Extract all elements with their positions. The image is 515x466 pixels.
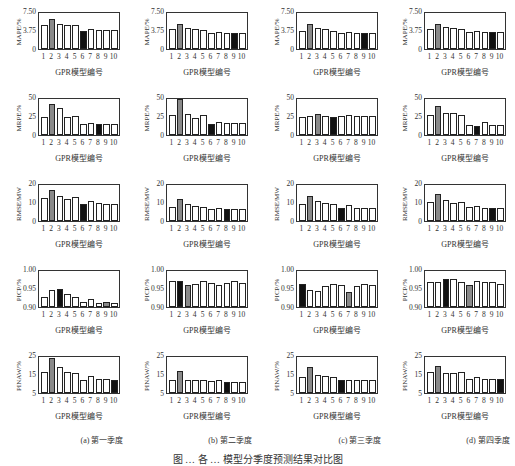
chart-panel: MAPE/%03.757.5012345678910GPR模型编号: [0, 0, 128, 86]
x-tick-label: 9: [232, 52, 236, 61]
x-tick-label: 9: [232, 138, 236, 147]
bar: [322, 203, 329, 221]
y-tick-label: 3.75: [151, 27, 164, 35]
x-tick-label: 10: [110, 310, 118, 319]
y-tick-label: 5: [290, 390, 294, 398]
x-tick-label: 9: [490, 52, 494, 61]
bar: [330, 117, 337, 135]
y-tick-label: 0.90: [281, 304, 294, 312]
bar: [354, 380, 361, 393]
x-axis-ticks: 12345678910: [296, 52, 378, 62]
bar: [369, 33, 376, 49]
bar: [450, 113, 457, 135]
bar: [41, 117, 48, 135]
x-tick-label: 6: [338, 138, 342, 147]
bar: [64, 294, 71, 307]
y-tick-label: 0: [160, 218, 164, 226]
x-tick-label: 7: [346, 310, 350, 319]
figure-caption: 图 … 各 … 模型分季度预测结果对比图: [0, 451, 515, 466]
chart-panel: PICP/%0.900.951.0012345678910GPR模型编号: [386, 258, 514, 344]
x-tick-label: 5: [73, 396, 77, 405]
x-axis-label: GPR模型编号: [166, 324, 248, 335]
bar: [41, 198, 48, 221]
bar: [224, 283, 231, 307]
x-axis-label: GPR模型编号: [296, 238, 378, 249]
x-tick-label: 2: [49, 52, 53, 61]
bar: [450, 203, 457, 221]
x-tick-label: 8: [354, 138, 358, 147]
bar: [177, 24, 184, 49]
bar: [497, 284, 504, 307]
x-tick-label: 6: [80, 310, 84, 319]
subcaption-q4: (d) 第四季度: [424, 434, 515, 445]
x-tick-label: 9: [104, 310, 108, 319]
x-tick-label: 7: [216, 396, 220, 405]
bar: [72, 197, 79, 221]
bar: [111, 380, 118, 394]
x-tick-label: 7: [474, 224, 478, 233]
bar: [57, 196, 64, 221]
x-axis-ticks: 12345678910: [296, 224, 378, 234]
x-tick-label: 2: [435, 396, 439, 405]
y-tick-label: 0: [160, 46, 164, 54]
x-tick-label: 2: [177, 224, 181, 233]
bar: [369, 380, 376, 393]
x-tick-label: 5: [201, 52, 205, 61]
x-tick-label: 3: [185, 52, 189, 61]
y-tick-label: 50: [415, 94, 423, 102]
x-axis-label: GPR模型编号: [38, 152, 120, 163]
bar: [466, 285, 473, 307]
x-tick-label: 5: [73, 310, 77, 319]
bar: [338, 380, 345, 393]
bar: [185, 285, 192, 307]
bar: [88, 299, 95, 307]
bar: [64, 117, 71, 135]
x-axis-label: GPR模型编号: [296, 66, 378, 77]
x-tick-label: 4: [65, 224, 69, 233]
bar: [169, 207, 176, 221]
y-tick-label: 10: [415, 199, 423, 207]
x-tick-label: 2: [435, 310, 439, 319]
bar: [96, 124, 103, 135]
y-axis-label-text: PICP/%: [401, 279, 409, 302]
x-tick-label: 7: [474, 310, 478, 319]
x-tick-label: 10: [238, 52, 246, 61]
x-tick-label: 5: [331, 138, 335, 147]
bar: [299, 377, 306, 393]
bar: [474, 206, 481, 221]
x-tick-label: 2: [307, 396, 311, 405]
x-tick-label: 8: [224, 52, 228, 61]
bar: [299, 117, 306, 135]
y-tick-label: 0: [32, 218, 36, 226]
x-tick-label: 3: [185, 396, 189, 405]
bar: [103, 204, 110, 221]
y-tick-label: 25: [415, 113, 423, 121]
x-axis-ticks: 12345678910: [424, 52, 506, 62]
x-tick-label: 6: [466, 138, 470, 147]
bar: [338, 285, 345, 307]
x-tick-label: 1: [299, 310, 303, 319]
y-tick-label: 25: [29, 113, 37, 121]
x-tick-label: 2: [49, 224, 53, 233]
x-tick-label: 6: [338, 396, 342, 405]
x-axis-label: GPR模型编号: [424, 152, 506, 163]
bar: [497, 208, 504, 222]
x-axis-label: GPR模型编号: [38, 238, 120, 249]
y-tick-label: 0: [160, 132, 164, 140]
x-tick-label: 5: [331, 310, 335, 319]
x-tick-label: 1: [299, 396, 303, 405]
bar: [200, 30, 207, 49]
x-tick-label: 4: [451, 396, 455, 405]
bar: [489, 208, 496, 222]
x-tick-label: 9: [232, 310, 236, 319]
x-tick-label: 3: [57, 224, 61, 233]
x-tick-label: 3: [57, 138, 61, 147]
x-tick-label: 8: [224, 138, 228, 147]
bar: [489, 32, 496, 49]
plot-area: [166, 270, 248, 308]
bar: [41, 25, 48, 49]
x-tick-label: 3: [443, 138, 447, 147]
x-tick-label: 8: [224, 310, 228, 319]
x-axis-ticks: 12345678910: [296, 396, 378, 406]
y-axis-label-text: MRPE/%: [15, 105, 23, 132]
